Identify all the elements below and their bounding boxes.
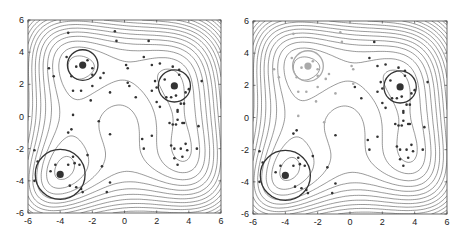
sample-point [305,90,308,93]
sample-point [72,114,75,117]
sample-point [128,85,131,88]
x-tick-label: 4 [412,217,417,227]
sample-point [273,68,276,71]
sample-point [352,68,355,71]
sample-point [151,135,154,138]
sample-point [109,133,112,136]
cluster-center [304,62,311,69]
scatter-points [258,31,429,200]
sample-point [410,92,413,95]
sample-point [350,65,353,68]
sample-point [67,32,70,35]
sample-point [400,95,403,98]
sample-point [170,144,173,147]
sample-point [184,91,187,94]
sample-point [410,144,413,147]
x-tick-label: 0 [122,216,127,226]
sample-point [143,147,146,150]
sample-point [141,138,144,141]
sample-point [324,78,327,81]
contour-lines [28,20,221,213]
sample-point [407,156,410,159]
sample-point [352,82,355,85]
sample-point [171,123,174,126]
sample-point [91,85,94,88]
sample-point [48,67,51,70]
sample-point [381,87,384,90]
sample-point [354,86,357,89]
x-tick-label: 2 [380,217,385,227]
sample-point [173,157,176,160]
sample-point [421,148,424,151]
sample-point [291,57,294,60]
sample-point [197,125,200,128]
x-tick-label: -2 [314,217,322,227]
sample-point [151,89,154,92]
sample-point [334,92,337,95]
sample-point [328,73,331,76]
sample-point [106,191,109,194]
sample-point [315,100,318,103]
sample-point [339,31,342,34]
sample-point [402,164,405,167]
sample-point [101,165,104,168]
sample-point [75,186,78,189]
sample-point [102,72,105,75]
sample-point [376,65,379,68]
sample-point [70,128,73,131]
right-contour-plot: -6-4-20246-6-4-20246 [241,16,450,227]
sample-point [399,148,402,151]
y-tick-label: 2 [244,80,249,90]
sample-point [134,96,137,99]
sample-point [33,149,36,152]
sample-point [326,166,329,169]
sample-point [300,187,303,190]
sample-point [360,97,363,100]
sample-point [373,41,376,44]
y-tick-label: -2 [16,144,24,154]
cluster-center [79,61,86,68]
cluster-center [397,83,404,90]
sample-point [81,191,84,194]
sample-point [341,41,344,44]
sample-point [151,64,154,67]
sample-point [67,131,70,134]
sample-point [143,56,146,59]
sample-point [126,81,129,84]
sample-point [163,78,166,81]
sample-point [154,80,157,83]
sample-point [78,163,81,166]
sample-point [114,30,117,33]
sample-point [334,182,337,185]
sample-point [368,57,371,60]
sample-point [292,132,295,135]
sample-point [334,134,337,137]
sample-point [396,97,399,100]
sample-point [295,129,298,132]
sample-point [49,170,52,173]
sample-point [294,185,297,188]
sample-point [159,62,162,65]
sample-point [394,123,397,126]
sample-point [412,150,415,153]
cluster-center [171,82,178,89]
sample-point [316,68,319,71]
sample-point [109,91,112,94]
x-tick-label: -4 [281,217,289,227]
sample-point [402,111,405,114]
sample-point [405,148,408,151]
sample-point [69,184,72,187]
sample-point [67,163,70,166]
y-tick-label: -2 [241,145,249,155]
sample-point [99,77,102,80]
sample-point [391,97,394,100]
sample-point [176,110,179,113]
sample-point [65,56,68,59]
sample-point [165,96,168,99]
contour-lines [253,21,447,214]
sample-point [312,60,315,63]
sample-point [404,74,407,77]
y-tick-label: 0 [19,112,24,122]
x-tick-label: 6 [218,216,223,226]
sample-point [89,99,92,102]
